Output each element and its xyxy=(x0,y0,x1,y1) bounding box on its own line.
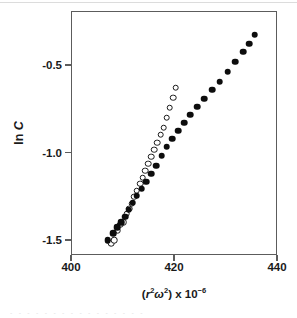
data-point xyxy=(187,112,194,119)
figure-container: 400420440-0.5-1.0-1.5 (r2ω2) x 10−6 ln C… xyxy=(0,0,297,318)
x-title-scale-exponent: −6 xyxy=(198,286,207,295)
data-point xyxy=(224,68,231,75)
data-point xyxy=(148,171,155,178)
page-top-rule xyxy=(0,2,297,3)
data-point xyxy=(181,120,188,127)
plot-frame xyxy=(71,11,277,255)
data-point xyxy=(158,152,165,159)
data-point xyxy=(163,115,170,122)
data-point xyxy=(240,49,247,56)
data-point xyxy=(110,230,117,237)
y-title-c: C xyxy=(12,121,26,130)
data-point xyxy=(151,147,158,154)
x-axis-title: (r2ω2) x 10−6 xyxy=(142,286,206,300)
data-point xyxy=(129,200,136,207)
data-point xyxy=(148,154,155,161)
plot-data-area xyxy=(72,12,276,254)
data-point xyxy=(194,103,201,110)
data-point xyxy=(160,124,167,131)
data-point xyxy=(246,40,253,47)
data-point xyxy=(157,131,164,138)
y-tick--1.5 xyxy=(65,239,71,240)
data-point xyxy=(163,144,170,151)
data-point xyxy=(170,95,177,102)
x-tick-label-440: 440 xyxy=(267,261,286,273)
y-title-ln: ln xyxy=(12,130,26,145)
data-point xyxy=(153,162,160,169)
data-point xyxy=(209,87,216,94)
data-point xyxy=(111,237,118,244)
data-point xyxy=(143,179,150,186)
data-point xyxy=(138,186,145,193)
y-axis-title: ln C xyxy=(12,121,26,145)
data-point xyxy=(145,161,152,168)
y-tick--1.0 xyxy=(65,152,71,153)
data-point xyxy=(125,207,132,214)
data-point xyxy=(169,136,176,143)
y-tick--0.5 xyxy=(65,64,71,65)
cropped-caption-ghost: - - - - - - - - - - - - - - - - xyxy=(10,309,287,315)
data-point xyxy=(167,105,174,112)
data-point xyxy=(232,59,239,66)
data-point xyxy=(201,95,208,102)
data-point xyxy=(217,78,224,85)
x-tick-label-420: 420 xyxy=(164,261,183,273)
data-point xyxy=(122,214,129,221)
y-tick-label--0.5: -0.5 xyxy=(42,59,62,71)
data-point xyxy=(154,140,161,147)
data-point xyxy=(172,85,179,92)
x-title-scale-text: ) x 10 xyxy=(168,288,197,300)
data-point xyxy=(104,237,111,244)
y-tick-label--1.0: -1.0 xyxy=(42,147,62,159)
data-point xyxy=(252,32,259,39)
x-tick-label-400: 400 xyxy=(61,261,80,273)
x-title-omega: ω xyxy=(154,288,164,300)
data-point xyxy=(134,193,141,200)
data-point xyxy=(175,127,182,134)
y-tick-label--1.5: -1.5 xyxy=(42,234,62,246)
